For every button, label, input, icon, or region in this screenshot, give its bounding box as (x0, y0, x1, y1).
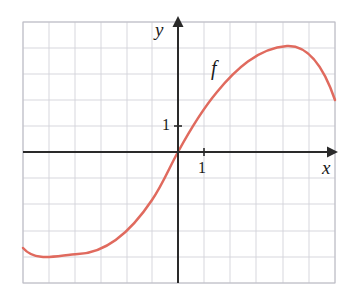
y-axis-tick-label-1: 1 (162, 117, 170, 133)
graph-figure: y x f 1 1 (0, 0, 352, 295)
y-axis-label: y (155, 20, 163, 39)
curve-label-f: f (211, 58, 217, 78)
x-axis-tick-label-1: 1 (198, 160, 206, 176)
graph-canvas (0, 0, 352, 295)
y-axis (173, 16, 184, 283)
x-axis-arrowhead (327, 147, 338, 158)
x-axis-label: x (322, 158, 330, 177)
